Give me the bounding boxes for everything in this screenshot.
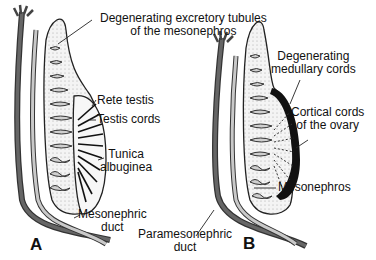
label-mesonephric-duct: Mesonephric duct [78,208,147,234]
label-line-2: of the mesonephros [100,25,267,38]
label-testis-cords: Testis cords [97,113,160,126]
label-line-2: medullary cords [271,63,356,76]
label-cortical-cords: Cortical cords of the ovary [291,106,364,132]
panel-letter-b: B [243,234,255,254]
label-line-2: of the ovary [291,119,364,132]
label-line-2: duct [138,241,232,254]
label-line-2: duct [78,221,147,234]
label-degenerating-medullary-cords: Degenerating medullary cords [271,50,356,76]
label-line-2: albuginea [100,161,152,174]
panel-letter-a: A [30,235,42,255]
label-degenerating-excretory-tubules: Degenerating excretory tubules of the me… [100,12,267,38]
label-mesonephros: Mesonephros [278,181,351,194]
label-tunica-albuginea: Tunica albuginea [100,148,152,174]
label-paramesonephric-duct: Paramesonephric duct [138,228,232,254]
label-rete-testis: Rete testis [97,94,154,107]
diagram-stage: Degenerating excretory tubules of the me… [0,0,376,260]
